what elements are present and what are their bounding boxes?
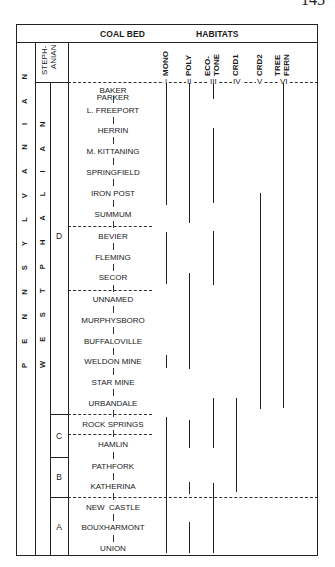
habitats-header: HABITATS xyxy=(196,29,239,39)
coal-bed-summum: SUMMUM xyxy=(68,210,158,219)
mono-range-3 xyxy=(166,355,167,368)
ecotone-range-4 xyxy=(213,398,214,448)
coal-bed-new-castle: NEW CASTLE xyxy=(68,503,158,512)
crd2-range-1 xyxy=(260,193,261,409)
period-col-divider xyxy=(35,42,36,556)
coal-bed-herrin: HERRIN xyxy=(68,126,158,135)
coal-bed-bouxharmont: BOUXHARMONT xyxy=(68,523,158,532)
westphalian-label: W E S T P H A L I A N xyxy=(38,113,47,368)
coal-bed-pathfork: PATHFORK xyxy=(68,462,158,471)
summum-bevier-boundary xyxy=(68,226,152,227)
habitat-poly: POLY xyxy=(184,55,193,76)
ecotone-line2: TONE xyxy=(212,54,221,76)
connector-tick xyxy=(113,452,114,459)
stage-a: A xyxy=(50,522,68,532)
coal-bed-hamlin: HAMLIN xyxy=(68,440,158,449)
connector-tick xyxy=(113,179,114,186)
coal-bed-unnamed: UNNAMED xyxy=(68,295,158,304)
coal-bed-secor: SECOR xyxy=(68,273,158,282)
stage-d-c-divider xyxy=(50,414,68,415)
katherina-newcastle-boundary xyxy=(68,497,318,498)
rocksprings-hamlin-boundary xyxy=(68,434,152,435)
connector-tick xyxy=(113,368,114,375)
connector-tick xyxy=(113,285,114,292)
connector-tick xyxy=(113,473,114,480)
mono-range-2 xyxy=(166,232,167,284)
treefern-line2: FERN xyxy=(282,54,291,76)
ecotone-range-3 xyxy=(213,231,214,285)
stephanian-label: STEPH- ANIAN xyxy=(40,45,58,75)
crd1-range-1 xyxy=(236,398,237,492)
coal-bed-m-kittaning: M. KITTANING xyxy=(68,147,158,156)
coal-bed-baker: BAKER xyxy=(68,86,158,95)
coal-bed-header: COAL BED xyxy=(100,29,145,39)
connector-tick xyxy=(113,221,114,228)
stage-b: B xyxy=(50,472,68,482)
connector-tick xyxy=(113,200,114,207)
mono-range-1 xyxy=(166,83,167,205)
stephanian-bottom xyxy=(35,82,68,83)
connector-tick xyxy=(113,264,114,271)
coal-bed-rock-springs: ROCK SPRINGS xyxy=(68,420,158,429)
poly-range-1 xyxy=(189,83,190,223)
connector-tick xyxy=(113,493,114,500)
stephanian-line2: ANIAN xyxy=(49,45,58,75)
coal-bed-iron-post: IRON POST xyxy=(68,189,158,198)
poly-range-5 xyxy=(189,522,190,553)
pennsylvanian-label: P E N N S Y L V A N I A N xyxy=(20,65,29,368)
secor-unnamed-boundary xyxy=(68,290,152,291)
coal-bed-murphysboro: MURPHYSBORO xyxy=(68,316,158,325)
ecotone-range-2 xyxy=(213,128,214,203)
habitat-crd1: CRD1 xyxy=(231,54,240,76)
roman-v: V xyxy=(256,78,263,86)
coal-bed-star-mine: STAR MINE xyxy=(68,378,158,387)
coal-bed-bevier: BEVIER xyxy=(68,232,158,241)
connector-tick xyxy=(113,243,114,250)
coal-bed-union: UNION xyxy=(68,544,158,553)
stage-c-b-divider xyxy=(50,457,68,458)
coal-bed-l-freeport: L. FREEPORT xyxy=(68,106,158,115)
coal-bed-urbandale: URBANDALE xyxy=(68,399,158,408)
coal-bed-katherina: KATHERINA xyxy=(68,482,158,491)
connector-tick xyxy=(113,306,114,313)
connector-tick xyxy=(113,96,114,103)
coal-bed-springfield: SPRINGFIELD xyxy=(68,168,158,177)
ecotone-range-5 xyxy=(213,483,214,553)
stage-c: C xyxy=(50,431,68,441)
poly-range-4 xyxy=(189,482,190,494)
poly-range-2 xyxy=(189,273,190,369)
habitat-mono: MONO xyxy=(161,51,170,76)
connector-tick xyxy=(113,158,114,165)
stephanian-line1: STEPH- xyxy=(40,45,49,75)
stage-b-a-divider xyxy=(50,497,68,498)
connector-tick xyxy=(113,410,114,417)
coal-bed-buffaloville: BUFFALOVILLE xyxy=(68,337,158,346)
connector-tick xyxy=(113,389,114,396)
poly-range-3 xyxy=(189,420,190,448)
connector-tick xyxy=(113,535,114,542)
coal-bed-weldon-mine: WELDON MINE xyxy=(68,357,158,366)
roman-iv: IV xyxy=(232,78,242,86)
epoch-col-divider xyxy=(50,82,51,556)
ecotone-range-1 xyxy=(213,83,214,99)
connector-tick xyxy=(113,117,114,124)
connector-tick xyxy=(113,514,114,521)
habitat-ecotone: ECO- TONE xyxy=(203,54,221,76)
header-divider xyxy=(16,42,318,43)
coal-bed-fleming: FLEMING xyxy=(68,253,158,262)
connector-tick xyxy=(113,430,114,437)
urbandale-rocksprings-boundary xyxy=(68,414,152,415)
stage-d: D xyxy=(50,231,68,241)
mono-range-4 xyxy=(166,417,167,553)
habitat-crd2: CRD2 xyxy=(255,54,264,76)
treefern-range-1 xyxy=(283,83,284,408)
habitat-tree-fern: TREE FERN xyxy=(273,54,291,76)
connector-tick xyxy=(113,327,114,334)
connector-tick xyxy=(113,137,114,144)
treefern-line1: TREE xyxy=(273,54,282,76)
connector-tick xyxy=(113,348,114,355)
page-number: 145 xyxy=(301,0,325,9)
ecotone-line1: ECO- xyxy=(203,54,212,76)
